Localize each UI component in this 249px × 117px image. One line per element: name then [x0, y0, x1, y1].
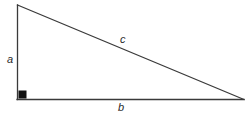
triangle-hypotenuse-c-line [18, 5, 245, 100]
label-side-c: c [120, 34, 126, 45]
label-side-b: b [118, 102, 124, 113]
right-angle-marker-icon [19, 91, 27, 99]
triangle-svg [0, 0, 249, 117]
right-triangle-figure: a b c [0, 0, 249, 117]
label-side-a: a [7, 54, 13, 65]
